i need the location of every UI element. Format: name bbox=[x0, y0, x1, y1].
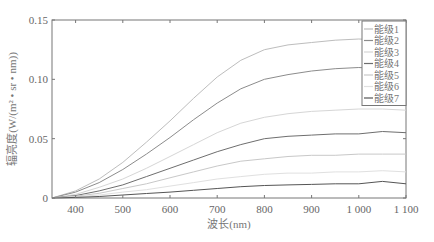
x-tick-label: 800 bbox=[256, 203, 273, 215]
x-tick-label: 700 bbox=[209, 203, 226, 215]
x-axis-label: 波长(nm) bbox=[207, 218, 251, 231]
y-tick-label: 0 bbox=[43, 192, 49, 204]
legend-label: 能级5 bbox=[374, 69, 399, 81]
series-line-2 bbox=[52, 68, 406, 199]
legend-label: 能级2 bbox=[374, 34, 399, 46]
legend-label: 能级6 bbox=[374, 80, 399, 92]
chart: 4005006007008009001 0001 100 00.050.100.… bbox=[0, 0, 434, 242]
x-tick-label: 400 bbox=[67, 203, 84, 215]
plot-area bbox=[52, 20, 406, 198]
legend-label: 能级7 bbox=[374, 92, 399, 104]
series-line-1 bbox=[52, 39, 406, 198]
x-tick-label: 1 100 bbox=[394, 203, 419, 215]
y-tick-label: 0.05 bbox=[29, 133, 49, 145]
legend: 能级1能级2能级3能级4能级5能级6能级7 bbox=[362, 21, 406, 106]
legend-label: 能级1 bbox=[374, 23, 399, 35]
x-tick-label: 900 bbox=[303, 203, 320, 215]
legend-label: 能级3 bbox=[374, 46, 399, 58]
y-axis-label: 辐亮度(W/(m² • sr • nm)) bbox=[5, 52, 19, 166]
series-line-3 bbox=[52, 109, 406, 198]
y-tick-label: 0.10 bbox=[29, 73, 49, 85]
y-tick-label: 0.15 bbox=[29, 14, 49, 26]
x-tick-label: 1 000 bbox=[346, 203, 371, 215]
legend-label: 能级4 bbox=[374, 57, 399, 69]
series-line-5 bbox=[52, 154, 406, 198]
x-tick-label: 500 bbox=[115, 203, 132, 215]
x-tick-label: 600 bbox=[162, 203, 179, 215]
